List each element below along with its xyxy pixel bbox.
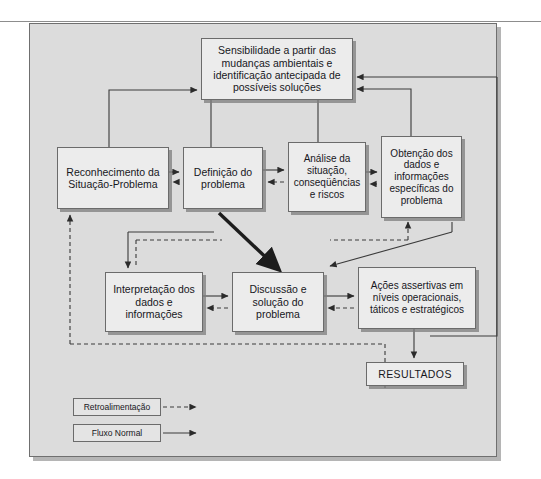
legend-normal-label: Fluxo Normal: [92, 428, 143, 438]
edge-right-diagonal-to-discussao: [330, 232, 452, 266]
node-reconhecimento-label: Reconhecimento da Situação-Problema: [61, 166, 165, 191]
node-discussao[interactable]: Discussão e solução do problema: [232, 272, 324, 332]
legend-item-normal-flow: Fluxo Normal: [73, 424, 161, 442]
node-reconhecimento[interactable]: Reconhecimento da Situação-Problema: [57, 147, 169, 209]
edge-obtencao-to-sensibilidade: [357, 89, 411, 136]
node-resultados-label: RESULTADOS: [370, 368, 460, 380]
node-resultados[interactable]: RESULTADOS: [366, 362, 464, 386]
edge-definicao-to-discussao-thick: [219, 213, 276, 267]
legend-feedback-label: Retroalimentação: [84, 402, 151, 412]
node-analise-label: Análise da situação, conseqüências e ris…: [292, 153, 362, 200]
node-analise[interactable]: Análise da situação, conseqüências e ris…: [288, 142, 366, 212]
node-interpretacao[interactable]: Interpretação dos dados e informações: [105, 272, 203, 332]
node-sensibilidade[interactable]: Sensibilidade a partir das mudanças ambi…: [201, 38, 353, 100]
node-definicao[interactable]: Definição do problema: [183, 147, 263, 209]
node-acoes[interactable]: Ações assertivas em níveis operacionais,…: [358, 267, 476, 329]
node-sensibilidade-label: Sensibilidade a partir das mudanças ambi…: [205, 44, 349, 94]
legend-item-feedback: Retroalimentação: [73, 398, 161, 416]
node-definicao-label: Definição do problema: [187, 166, 259, 191]
node-discussao-label: Discussão e solução do problema: [236, 283, 320, 320]
diagram-page: Sensibilidade a partir das mudanças ambi…: [0, 0, 541, 479]
node-obtencao[interactable]: Obtenção dos dados e informações específ…: [381, 136, 462, 218]
node-interpretacao-label: Interpretação dos dados e informações: [109, 283, 199, 320]
node-obtencao-label: Obtenção dos dados e informações específ…: [385, 148, 458, 207]
edge-reconhecimento-to-sensibilidade: [109, 90, 197, 147]
node-acoes-label: Ações assertivas em níveis operacionais,…: [362, 280, 472, 315]
